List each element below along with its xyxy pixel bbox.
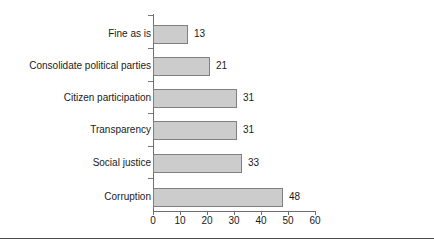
bar[interactable] — [153, 25, 188, 44]
bar[interactable] — [153, 57, 210, 76]
bar-value-label: 31 — [243, 124, 254, 136]
y-axis-tick — [148, 81, 153, 82]
x-axis-tick-label: 60 — [302, 215, 328, 227]
bar-value-label: 48 — [289, 191, 300, 203]
y-axis-tick — [148, 15, 153, 16]
category-label: Consolidate political parties — [29, 60, 151, 72]
x-axis-tick-label: 0 — [140, 215, 166, 227]
y-axis-tick — [148, 178, 153, 179]
category-label: Fine as is — [108, 28, 151, 40]
y-axis-tick — [148, 146, 153, 147]
bar-value-label: 13 — [194, 28, 205, 40]
x-axis-tick-label: 10 — [167, 215, 193, 227]
bar[interactable] — [153, 154, 242, 173]
category-label: Social justice — [93, 157, 151, 169]
x-axis-tick-label: 20 — [194, 215, 220, 227]
plot-area: Fine as is Consolidate political parties… — [0, 0, 434, 249]
bar[interactable] — [153, 121, 237, 140]
bar-value-label: 21 — [216, 60, 227, 72]
bar[interactable] — [153, 188, 283, 207]
bar[interactable] — [153, 89, 237, 108]
bar-value-label: 33 — [248, 157, 259, 169]
bar-chart-figure: Fine as is Consolidate political parties… — [0, 0, 434, 249]
x-axis-tick-label: 50 — [275, 215, 301, 227]
y-axis-tick — [148, 48, 153, 49]
x-axis-tick-label: 30 — [221, 215, 247, 227]
category-label: Transparency — [90, 124, 151, 136]
category-label: Citizen participation — [64, 92, 151, 104]
page-divider-rule — [0, 238, 434, 239]
bar-value-label: 31 — [243, 92, 254, 104]
x-axis-tick-label: 40 — [248, 215, 274, 227]
category-label: Corruption — [104, 191, 151, 203]
y-axis-tick — [148, 113, 153, 114]
truncated-caption — [0, 241, 240, 249]
